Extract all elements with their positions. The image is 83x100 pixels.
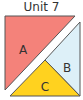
piece-c-label: C (41, 80, 49, 94)
piece-b-label: B (63, 61, 71, 75)
unit-diagram: A B C (0, 0, 83, 100)
piece-a-label: A (19, 43, 28, 57)
